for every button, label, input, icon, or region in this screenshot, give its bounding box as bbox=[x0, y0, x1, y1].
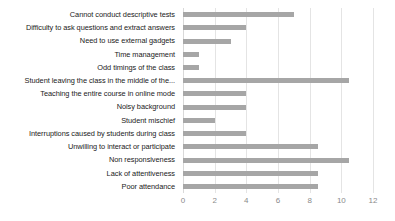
bar-row bbox=[183, 127, 373, 140]
category-label: Cannot conduct descriptive tests bbox=[0, 8, 179, 21]
value-axis-tick: 2 bbox=[212, 193, 216, 209]
category-label: Unwilling to interact or participate bbox=[0, 140, 179, 153]
category-label: Need to use external gadgets bbox=[0, 34, 179, 47]
bar-row bbox=[183, 140, 373, 153]
bar bbox=[183, 158, 349, 163]
plot-area bbox=[183, 8, 373, 193]
gridline-12 bbox=[373, 8, 374, 193]
category-axis-labels: Cannot conduct descriptive testsDifficul… bbox=[0, 8, 179, 193]
bar bbox=[183, 105, 246, 110]
bar-row bbox=[183, 87, 373, 100]
bar-row bbox=[183, 101, 373, 114]
value-axis-tick: 4 bbox=[244, 193, 248, 209]
bar bbox=[183, 91, 246, 96]
category-label: Difficulty to ask questions and extract … bbox=[0, 21, 179, 34]
bar-chart: Cannot conduct descriptive testsDifficul… bbox=[0, 0, 395, 221]
category-label: Lack of attentiveness bbox=[0, 167, 179, 180]
bar-rows bbox=[183, 8, 373, 193]
bar bbox=[183, 12, 294, 17]
bar-row bbox=[183, 153, 373, 166]
category-label: Noisy background bbox=[0, 101, 179, 114]
bar-row bbox=[183, 8, 373, 21]
bar-row bbox=[183, 167, 373, 180]
bar bbox=[183, 25, 246, 30]
bar bbox=[183, 171, 318, 176]
bar bbox=[183, 131, 246, 136]
value-axis-tick: 6 bbox=[276, 193, 280, 209]
bar bbox=[183, 184, 318, 189]
category-label: Odd timings of the class bbox=[0, 61, 179, 74]
bar-row bbox=[183, 61, 373, 74]
bar-row bbox=[183, 74, 373, 87]
bar-row bbox=[183, 180, 373, 193]
category-label: Teaching the entire course in online mod… bbox=[0, 87, 179, 100]
bar-row bbox=[183, 48, 373, 61]
category-label: Time management bbox=[0, 48, 179, 61]
bar bbox=[183, 144, 318, 149]
value-axis-tick: 8 bbox=[307, 193, 311, 209]
bar-row bbox=[183, 34, 373, 47]
bar bbox=[183, 52, 199, 57]
value-axis-tick: 10 bbox=[337, 193, 346, 209]
bar bbox=[183, 39, 231, 44]
bar-row bbox=[183, 114, 373, 127]
category-label: Student leaving the class in the middle … bbox=[0, 74, 179, 87]
bar bbox=[183, 78, 349, 83]
category-label: Student mischief bbox=[0, 114, 179, 127]
bar bbox=[183, 118, 215, 123]
bar-row bbox=[183, 21, 373, 34]
category-label: Interruptions caused by students during … bbox=[0, 127, 179, 140]
value-axis-tick: 12 bbox=[369, 193, 378, 209]
category-label: Poor attendance bbox=[0, 180, 179, 193]
value-axis-tick: 0 bbox=[181, 193, 185, 209]
category-label: Non responsiveness bbox=[0, 153, 179, 166]
value-axis: 024681012 bbox=[183, 193, 373, 209]
bar bbox=[183, 65, 199, 70]
